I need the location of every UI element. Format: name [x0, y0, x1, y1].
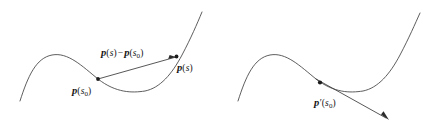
- p-prime-label-close-paren: ): [333, 98, 336, 108]
- point-marker-p-s: [175, 55, 179, 59]
- secant-label-close-paren-2: ): [140, 48, 143, 58]
- point-marker-p-s0-right: [318, 80, 322, 84]
- p-s0-label-close-paren: ): [88, 86, 91, 96]
- secant-vector-label: p(s)−p(s0): [101, 48, 143, 60]
- tangent-vector-label: p′(s0): [314, 98, 336, 110]
- point-marker-p-s0: [96, 77, 100, 81]
- right-panel-curve: [238, 13, 420, 101]
- secant-vector-line: [98, 57, 176, 79]
- figure-canvas: [0, 0, 439, 132]
- point-p-s0-label: p(s0): [72, 86, 91, 98]
- point-p-s-label: p(s): [177, 63, 193, 74]
- figure-container: p(s)−p(s0) p(s) p(s0) p′(s0): [0, 0, 439, 132]
- p-s-label-close-paren: ): [189, 63, 192, 73]
